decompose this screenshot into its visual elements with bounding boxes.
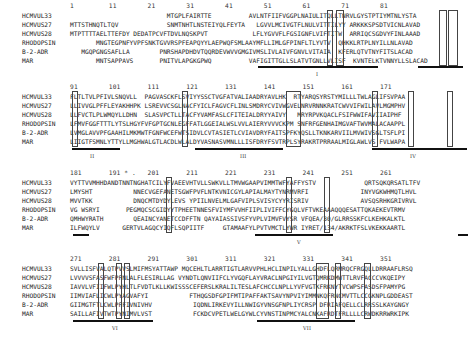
seq-row: MGQPGNGSAFLLA PNRSHAPDHDVTQQRDEVWVVGMGIV…	[70, 48, 413, 56]
ruler-block-2: 91 101 111 121 131 141 151 161 171	[70, 83, 392, 91]
conserved-box	[124, 263, 130, 319]
conserved-box	[408, 91, 414, 147]
tm-domain-bar	[257, 320, 355, 322]
seq-row: VYTTVVMHHDANDTNNTNGHATCILYFVAEEVHTVLLSWK…	[70, 179, 420, 187]
conserved-box	[116, 263, 122, 319]
seq-row: ILFWQYLV GERTVLAGQCYIQFLSQPIITF GTAMAAFY…	[70, 224, 405, 232]
seq-row: LLFVCTLPLWMQYLLDHN SLASVPCTLLTACFYVAMFAS…	[70, 111, 402, 119]
seq-label: HCMVUS27	[22, 188, 52, 196]
tm-domain-bar	[73, 234, 89, 236]
seq-label: MAR	[22, 138, 33, 146]
seq-row: QMHWYRATH QEAINCYANETCCDFFTN QAYAIASSIVS…	[70, 215, 405, 223]
domain-label: I	[316, 70, 318, 78]
ruler-block-1: 1 11 21 31 41 51 61 71 81	[70, 2, 388, 10]
seq-label: RHODOPSIN	[22, 292, 56, 300]
seq-row: MNGTEGPNFYVPFSNKTGVVRSPFEAPQYYLAEPWQFSML…	[70, 39, 413, 47]
conserved-box	[98, 263, 104, 319]
conserved-box	[372, 91, 378, 147]
seq-label: B-2-ADR	[22, 48, 48, 56]
conserved-box	[72, 91, 78, 147]
conserved-box	[448, 10, 458, 66]
seq-label: HCMVUS28	[22, 197, 52, 205]
seq-label: RHODOPSIN	[22, 206, 56, 214]
seq-label: B-2-ADR	[22, 215, 48, 223]
seq-label: HCMVUS28	[22, 30, 52, 38]
seq-row: MTTSTHNQTLTQV SNMTNHTLNSTEIYQLFEYTA LGVV…	[70, 21, 420, 29]
seq-label: HCMVUL33	[22, 265, 52, 273]
conserved-box	[447, 91, 453, 147]
seq-row: LMYSHT NNECVGEFANETSGWFPVFLNTKVNICGYLAPI…	[70, 188, 416, 196]
seq-label: B-2-ADR	[22, 301, 48, 309]
conserved-box	[335, 263, 341, 319]
conserved-box	[316, 263, 329, 319]
seq-label: MAR	[22, 310, 33, 318]
ruler-block-4: 271 281 291 301 311 321 331 341 351	[70, 255, 392, 263]
seq-row: FLTLTVLPFIVLSNQVLL PAGVASCKFLSVIYYSSCTVG…	[70, 93, 405, 101]
seq-label: MAR	[22, 57, 33, 65]
ruler-block-3: 181 191 * . 201 211 221 231 241 251 261	[70, 169, 392, 177]
domain-label: IV	[410, 152, 416, 160]
seq-label: MAR	[22, 224, 33, 232]
tm-domain-bar	[372, 148, 467, 150]
conserved-box	[336, 10, 344, 66]
tm-domain-bar	[418, 66, 463, 68]
seq-label: HCMVUS28	[22, 283, 52, 291]
seq-label: RHODOPSIN	[22, 120, 56, 128]
domain-label: VII	[303, 324, 311, 332]
seq-label: HCMVUS27	[22, 102, 52, 110]
seq-row: LIIGTFSMNLYTTYLLMGHWALGTLACDLWLALDYVASNA…	[70, 138, 405, 146]
tm-domain-bar	[73, 320, 153, 322]
domain-label: V	[297, 238, 301, 246]
domain-label: III	[240, 152, 246, 160]
tm-domain-bar	[195, 148, 283, 150]
seq-row: LLIVVGLPFFLEYAKHHPK LSREVVCSGLNACFYICLFA…	[70, 102, 405, 110]
conserved-box	[327, 10, 333, 66]
seq-row: MVVTKK DNQCMTDYDYLEVS YPIILNVELMLGAFVIPL…	[70, 197, 416, 205]
seq-label: HCMVUS27	[22, 274, 52, 282]
tm-domain-bar	[72, 148, 120, 150]
seq-row: MTPTTTTAELTTEFDY DEDATPCVFTDVLNQSKPVT LF…	[70, 30, 420, 38]
seq-label: RHODOPSIN	[22, 39, 56, 47]
conserved-box	[439, 10, 447, 66]
seq-row: VG WSRYI PEGMQCSCGIDYYTPHEETNNESFVIYMFVV…	[70, 206, 405, 214]
seq-row: MNTSAPPAVS PNITVLAPGKGPWQ VAFIGITTGLLSLA…	[70, 57, 428, 65]
seq-label: B-2-ADR	[22, 129, 48, 137]
seq-row: MTGPLFAIRTTE AVLNTFIIFVGGPLNAIULITQLLTNR…	[70, 12, 416, 20]
seq-label: HCMVUL33	[22, 93, 52, 101]
conserved-box	[166, 177, 172, 233]
seq-label: HCMVUL33	[22, 179, 52, 187]
seq-label: HCMVUS27	[22, 21, 52, 29]
seq-label: HCMVUS28	[22, 111, 52, 119]
conserved-box	[324, 177, 330, 233]
sequence-alignment-figure: 1 11 21 31 41 51 61 71 81 HCMVUL33 MTGPL…	[0, 0, 471, 347]
seq-row: LFMVFGGFTTTLYTSLHGYFVFGPTGCNLEGFFATLGGEI…	[70, 120, 405, 128]
conserved-box	[182, 91, 188, 147]
conserved-box	[364, 263, 371, 319]
domain-label: VI	[112, 324, 118, 332]
tm-domain-bar	[255, 234, 333, 236]
tm-domain-bar	[458, 234, 468, 236]
seq-label: HCMVUL33	[22, 12, 52, 20]
conserved-box	[286, 91, 301, 147]
domain-label: II	[90, 152, 94, 160]
seq-row: LVMGLAVVPFGAAHILMKMWTFGNFWCEFWTSIDVLCVTA…	[70, 129, 405, 137]
conserved-box	[286, 177, 292, 233]
tm-domain-bar	[258, 66, 378, 68]
